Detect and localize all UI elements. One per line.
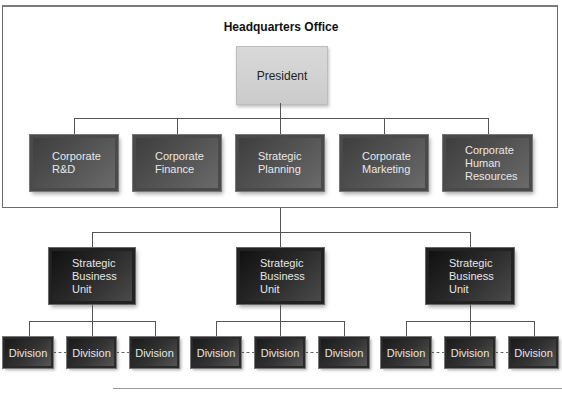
department-label: Corporate R&D [33, 150, 101, 176]
connector-hq-down [280, 208, 281, 232]
connector-sbu1-div3 [155, 321, 156, 337]
sbu-label: Strategic Business Unit [429, 257, 494, 296]
department-label: Corporate Marketing [343, 150, 411, 176]
connector-sbu2-down [280, 304, 281, 321]
dashed-link [431, 352, 445, 353]
connector-president-down [280, 103, 281, 118]
division-label: Division [387, 347, 426, 359]
sbu-label: Strategic Business Unit [240, 257, 305, 296]
connector-dept-1 [74, 118, 75, 135]
connector-sbu3-down [470, 304, 471, 321]
division-label: Division [261, 347, 300, 359]
connector-sbu-1 [92, 232, 93, 248]
dashed-link [241, 352, 255, 353]
strategic-business-unit-3: Strategic Business Unit [426, 248, 514, 304]
division-box: Division [509, 337, 558, 368]
connector-sbu2-div2 [280, 321, 281, 337]
division-box: Division [67, 337, 116, 368]
division-label: Division [451, 347, 490, 359]
connector-sbu2-div1 [216, 321, 217, 337]
division-box: Division [3, 337, 53, 368]
connector-dept-3 [280, 118, 281, 135]
connector-sbu2-div3 [344, 321, 345, 337]
department-label: Strategic Planning [239, 150, 301, 176]
connector-sbu3-div2 [470, 321, 471, 337]
connector-sbu-horizontal [92, 232, 471, 233]
dashed-link [116, 352, 130, 353]
division-box: Division [445, 337, 495, 368]
sbu-label: Strategic Business Unit [52, 257, 117, 296]
division-label: Division [325, 347, 364, 359]
division-box: Division [130, 337, 179, 368]
division-box: Division [191, 337, 241, 368]
connector-sbu3-div1 [406, 321, 407, 337]
department-strategic-planning: Strategic Planning [236, 135, 324, 191]
division-box: Division [255, 337, 305, 368]
headquarters-title: Headquarters Office [0, 20, 562, 34]
connector-departments-horizontal [74, 118, 489, 119]
president-box: President [236, 46, 328, 105]
president-label: President [257, 69, 308, 83]
division-label: Division [9, 347, 48, 359]
connector-sbu-3 [470, 232, 471, 248]
department-label: Corporate Human Resources [446, 144, 518, 183]
dashed-link [53, 352, 67, 353]
department-corporate-finance: Corporate Finance [133, 135, 221, 191]
footer-rule [113, 388, 562, 389]
division-box: Division [381, 337, 431, 368]
department-corporate-rd: Corporate R&D [30, 135, 118, 191]
department-label: Corporate Finance [136, 150, 204, 176]
division-label: Division [197, 347, 236, 359]
connector-dept-4 [384, 118, 385, 135]
connector-sbu1-div2 [92, 321, 93, 337]
connector-sbu1-div1 [29, 321, 30, 337]
division-label: Division [72, 347, 111, 359]
division-box: Division [319, 337, 369, 368]
department-corporate-marketing: Corporate Marketing [340, 135, 428, 191]
division-label: Division [514, 347, 553, 359]
strategic-business-unit-1: Strategic Business Unit [49, 248, 135, 304]
dashed-link [495, 352, 509, 353]
department-corporate-hr: Corporate Human Resources [443, 135, 532, 191]
connector-sbu3-div3 [534, 321, 535, 337]
connector-sbu-2 [280, 232, 281, 248]
connector-dept-2 [177, 118, 178, 135]
dashed-link [305, 352, 319, 353]
division-label: Division [135, 347, 174, 359]
connector-dept-5 [488, 118, 489, 135]
strategic-business-unit-2: Strategic Business Unit [237, 248, 324, 304]
connector-sbu1-down [92, 304, 93, 321]
